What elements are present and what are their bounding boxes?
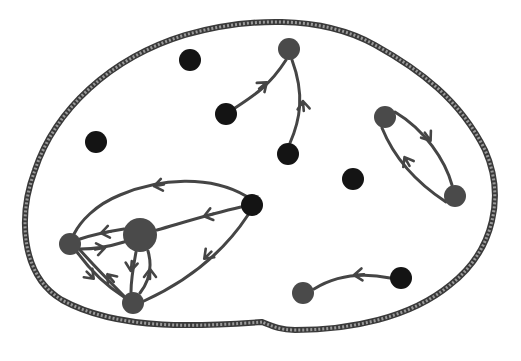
node-n13-black bbox=[390, 267, 412, 289]
arrowhead-icon bbox=[202, 208, 215, 222]
edge-n3-to-n4 bbox=[235, 60, 286, 108]
node-n12-gray bbox=[122, 292, 144, 314]
node-n9-black bbox=[241, 194, 263, 216]
arrowhead-icon bbox=[144, 269, 156, 279]
edge-n5-to-n4 bbox=[290, 60, 310, 143]
node-n6-black bbox=[342, 168, 364, 190]
edge-n10-to-n11 bbox=[80, 226, 124, 240]
node-n5-black bbox=[277, 143, 299, 165]
graph-svg bbox=[0, 0, 521, 361]
edge-n8-to-n7 bbox=[382, 128, 446, 202]
boundary-outline bbox=[25, 22, 495, 330]
node-n14-gray bbox=[292, 282, 314, 304]
node-group bbox=[59, 38, 466, 314]
edge-n7-to-n8 bbox=[395, 112, 452, 185]
edge-group bbox=[74, 60, 452, 301]
edge-n9-to-n10 bbox=[157, 207, 241, 230]
node-n11-gray bbox=[59, 233, 81, 255]
node-n2-black bbox=[85, 131, 107, 153]
node-n4-gray bbox=[278, 38, 300, 60]
node-n7-gray bbox=[374, 106, 396, 128]
boundary-hatch bbox=[25, 22, 495, 330]
edge-n9-to-n11 bbox=[74, 179, 246, 234]
edge-n13-to-n14 bbox=[314, 268, 390, 289]
diagram-canvas: Directed graph of nodes inside a closed … bbox=[0, 0, 521, 361]
arrowhead-icon bbox=[125, 261, 138, 272]
node-n8-gray bbox=[444, 185, 466, 207]
node-n1-black bbox=[179, 49, 201, 71]
arrowhead-icon bbox=[153, 179, 165, 193]
node-n3-black bbox=[215, 103, 237, 125]
edge-n10-to-n12 bbox=[125, 252, 138, 292]
edge-n11-to-n10 bbox=[80, 242, 124, 256]
node-n10-gray bbox=[123, 218, 157, 252]
boundary-outer-stroke bbox=[25, 22, 495, 330]
arrowhead-icon bbox=[100, 226, 112, 240]
arrowhead-icon bbox=[353, 268, 364, 281]
edge-n12-to-n10 bbox=[140, 251, 156, 293]
arrowhead-icon bbox=[94, 242, 106, 256]
